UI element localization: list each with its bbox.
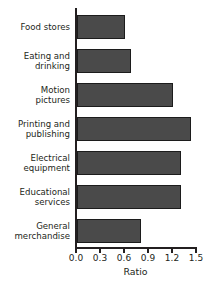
x-axis-tick-labels: 0.00.30.60.91.21.5 bbox=[0, 253, 208, 265]
category-label: Motion pictures bbox=[0, 78, 70, 112]
bar-group: Printing and publishing bbox=[0, 112, 208, 146]
plot-area: Food storesEating and drinkingMotion pic… bbox=[0, 0, 208, 252]
category-label: Electrical equipment bbox=[0, 146, 70, 180]
category-label: Printing and publishing bbox=[0, 112, 70, 146]
bar bbox=[77, 219, 141, 243]
category-label: Food stores bbox=[0, 10, 70, 44]
bar bbox=[77, 83, 173, 107]
bar-group: Electrical equipment bbox=[0, 146, 208, 180]
bar-group: Educational services bbox=[0, 180, 208, 214]
bar bbox=[77, 151, 181, 175]
x-axis-title: Ratio bbox=[75, 266, 196, 277]
category-label: Eating and drinking bbox=[0, 44, 70, 78]
category-label: Educational services bbox=[0, 180, 70, 214]
bar bbox=[77, 49, 131, 73]
bar bbox=[77, 185, 181, 209]
x-axis-tick-label: 1.5 bbox=[179, 253, 208, 264]
bar bbox=[77, 15, 125, 39]
category-label: General merchandise bbox=[0, 214, 70, 248]
bar-group: General merchandise bbox=[0, 214, 208, 248]
bar-chart: Food storesEating and drinkingMotion pic… bbox=[0, 0, 208, 283]
bar-group: Food stores bbox=[0, 10, 208, 44]
bar bbox=[77, 117, 191, 141]
bar-group: Motion pictures bbox=[0, 78, 208, 112]
bar-group: Eating and drinking bbox=[0, 44, 208, 78]
